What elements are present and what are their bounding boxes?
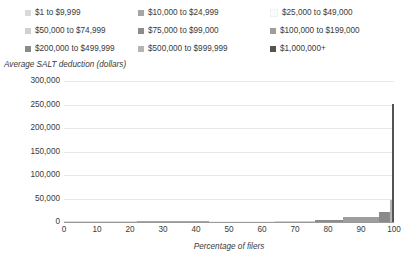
y-axis-tick-label: 100,000: [0, 171, 60, 179]
legend-item[interactable]: $10,000 to $24,999: [128, 9, 256, 17]
legend-item-label: $25,000 to $49,000: [282, 9, 353, 17]
y-axis-tick-label: 300,000: [0, 77, 60, 85]
bar-segment: [392, 104, 394, 222]
legend-swatch-icon: [25, 28, 31, 34]
bar-segment: [137, 221, 210, 222]
legend-item-label: $10,000 to $24,999: [148, 9, 219, 17]
legend-swatch-icon: [138, 28, 144, 34]
x-axis-tick-label: 70: [290, 226, 299, 234]
legend-swatch-icon: [25, 46, 31, 52]
chart-container: Average SALT deduction (dollars) 050,000…: [0, 60, 401, 263]
x-axis-tick-label: 100: [387, 226, 401, 234]
chart-legend: $1 to $9,999$10,000 to $24,999$25,000 to…: [0, 4, 401, 58]
legend-item-label: $100,000 to $199,000: [280, 27, 360, 35]
bar-segment: [209, 221, 275, 222]
legend-item[interactable]: $75,000 to $99,000: [128, 27, 256, 35]
y-axis-tick-label: 200,000: [0, 124, 60, 132]
plot-area: [64, 81, 394, 222]
bar-segment: [379, 212, 390, 222]
x-axis-tick-label: 60: [257, 226, 266, 234]
y-axis-tick-label: 150,000: [0, 147, 60, 155]
gridline: [64, 81, 394, 82]
x-axis-tick-label: 30: [158, 226, 167, 234]
legend-item[interactable]: $25,000 to $49,000: [256, 9, 401, 17]
legend-item[interactable]: $1,000,000+: [256, 45, 401, 53]
legend-swatch-icon: [138, 10, 144, 16]
legend-swatch-icon: [138, 46, 144, 52]
bar-segment: [275, 221, 315, 222]
legend-swatch-icon: [270, 9, 278, 17]
legend-swatch-icon: [25, 10, 31, 16]
legend-item[interactable]: $200,000 to $499,999: [0, 45, 128, 53]
gridline: [64, 199, 394, 200]
y-axis-tick-label: 0: [0, 218, 60, 226]
bar-segment: [343, 217, 379, 222]
gridline: [64, 128, 394, 129]
legend-item-label: $500,000 to $999,999: [148, 45, 228, 53]
legend-item[interactable]: $50,000 to $74,999: [0, 27, 128, 35]
y-axis-tick-label: 250,000: [0, 100, 60, 108]
legend-swatch-icon: [270, 46, 276, 52]
x-axis-tick-label: 90: [356, 226, 365, 234]
gridline: [64, 105, 394, 106]
legend-item[interactable]: $100,000 to $199,000: [256, 27, 401, 35]
legend-item-label: $75,000 to $99,000: [148, 27, 219, 35]
x-axis-tick-label: 80: [323, 226, 332, 234]
x-axis-tick-labels: 0102030405060708090100: [64, 226, 394, 240]
gridline: [64, 175, 394, 176]
bar-segment: [315, 220, 343, 222]
x-axis-tick-label: 20: [125, 226, 134, 234]
x-axis-tick-label: 50: [224, 226, 233, 234]
x-axis-tick-label: 0: [62, 226, 67, 234]
x-axis-line: [64, 222, 394, 223]
legend-item-label: $50,000 to $74,999: [35, 27, 106, 35]
legend-item[interactable]: $500,000 to $999,999: [128, 45, 256, 53]
y-axis-tick-label: 50,000: [0, 194, 60, 202]
bar-segment: [64, 221, 137, 222]
legend-item[interactable]: $1 to $9,999: [0, 9, 128, 17]
x-axis-tick-label: 40: [191, 226, 200, 234]
y-axis-tick-labels: 050,000100,000150,000200,000250,000300,0…: [0, 81, 60, 222]
legend-item-label: $1 to $9,999: [35, 9, 81, 17]
y-axis-title: Average SALT deduction (dollars): [4, 60, 126, 69]
x-axis-tick-label: 10: [92, 226, 101, 234]
gridline: [64, 152, 394, 153]
x-axis-title: Percentage of filers: [64, 242, 394, 251]
legend-item-label: $1,000,000+: [280, 45, 326, 53]
legend-swatch-icon: [270, 28, 276, 34]
legend-item-label: $200,000 to $499,999: [35, 45, 115, 53]
